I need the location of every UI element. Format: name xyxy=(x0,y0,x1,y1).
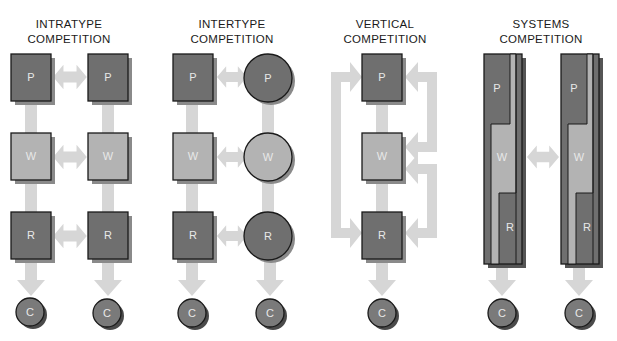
intertype-retailer-2-label: R xyxy=(264,230,272,242)
intertype-wholesaler-1-label: W xyxy=(188,150,199,162)
systems-channel-1: P W R xyxy=(484,54,526,268)
vertical-retailer-label: R xyxy=(378,229,386,241)
systems-2-producer-label: P xyxy=(570,82,577,94)
vertical-panel: P W R C xyxy=(331,54,437,330)
intratype-consumer-1-label: C xyxy=(26,306,34,318)
systems-channel-2: P W R xyxy=(561,54,603,268)
systems-2-retailer-label: R xyxy=(583,221,591,233)
competition-diagram: P W R C P W R C P xyxy=(0,0,617,341)
systems-panel: P W R P W R C C xyxy=(484,54,603,330)
intratype-panel: P W R C P W R C xyxy=(11,54,132,330)
systems-consumer-2-label: C xyxy=(575,307,583,319)
systems-1-retailer-label: R xyxy=(506,221,514,233)
intratype-consumer-2-label: C xyxy=(103,307,111,319)
systems-1-wholesaler-label: W xyxy=(497,151,508,163)
intertype-consumer-2-label: C xyxy=(266,307,274,319)
intertype-producer-1-label: P xyxy=(189,71,196,83)
intertype-producer-2-label: P xyxy=(264,72,271,84)
intratype-wholesaler-1-label: W xyxy=(26,150,37,162)
intratype-retailer-2-label: R xyxy=(104,229,112,241)
intratype-producer-1-label: P xyxy=(27,71,34,83)
systems-2-wholesaler-label: W xyxy=(574,151,585,163)
vertical-consumer-label: C xyxy=(378,307,386,319)
vertical-wholesaler-label: W xyxy=(377,150,388,162)
systems-consumer-1-label: C xyxy=(498,307,506,319)
intratype-retailer-1-label: R xyxy=(27,229,35,241)
intertype-wholesaler-2-label: W xyxy=(263,151,274,163)
intertype-panel: P W R C P W R C xyxy=(173,54,295,330)
vertical-producer-label: P xyxy=(378,71,385,83)
systems-1-producer-label: P xyxy=(493,82,500,94)
intertype-consumer-1-label: C xyxy=(188,307,196,319)
intertype-retailer-1-label: R xyxy=(189,229,197,241)
intratype-producer-2-label: P xyxy=(104,71,111,83)
intratype-wholesaler-2-label: W xyxy=(103,150,114,162)
